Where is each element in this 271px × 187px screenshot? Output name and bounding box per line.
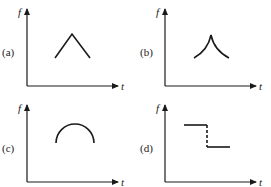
curve-a [55,34,90,58]
panel-label-c: (c) [2,142,15,155]
panel-label-a: (a) [2,46,15,59]
panel-label-b: (b) [140,46,153,59]
figure-canvas: f t (a) f t (b) f t (c) f t (d) [0,0,271,187]
y-axis-label-b: f [156,6,161,18]
x-axis-label-a: t [121,80,125,92]
x-axis-label-b: t [259,80,263,92]
panel-label-d: (d) [140,142,153,155]
y-axis-label-a: f [18,6,23,18]
panel-a: f t (a) [2,6,125,92]
x-axis-label-d: t [259,176,263,187]
panel-b: f t (b) [140,6,263,92]
x-axis-label-c: t [121,176,125,187]
panel-d: f t (d) [140,102,263,187]
panel-c: f t (c) [2,102,125,187]
curve-c [56,124,94,143]
curve-b [194,35,229,58]
y-axis-label-d: f [156,102,161,114]
y-axis-label-c: f [18,102,23,114]
